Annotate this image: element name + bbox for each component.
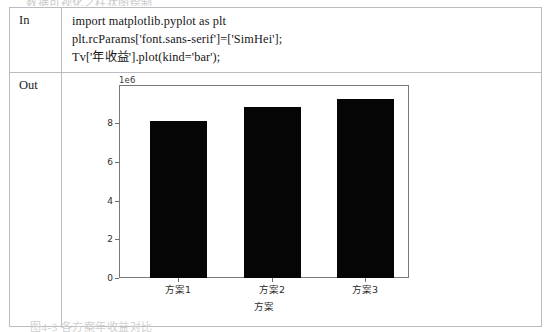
y-tick-label-8: 8 xyxy=(62,118,119,128)
bar-2 xyxy=(337,99,394,278)
output-row: Out 1e6 0 2 4 6 8 xyxy=(10,72,542,326)
x-axis-title: 方案 xyxy=(254,299,274,313)
y-tick-mark-8 xyxy=(115,123,119,124)
bar-chart-figure: 1e6 0 2 4 6 8 方案1 xyxy=(62,73,442,326)
code-line-3: Tv['年收益'].plot(kind='bar'); xyxy=(72,48,541,66)
y-tick-label-2: 2 xyxy=(62,234,119,244)
input-code-cell[interactable]: import matplotlib.pyplot as plt plt.rcPa… xyxy=(62,8,542,73)
y-tick-mark-2 xyxy=(115,239,119,240)
bar-0 xyxy=(150,121,207,278)
y-tick-label-0: 0 xyxy=(62,273,119,283)
code-line-1: import matplotlib.pyplot as plt xyxy=(72,12,541,30)
in-label-cell: In xyxy=(10,8,62,73)
input-row: In import matplotlib.pyplot as plt plt.r… xyxy=(10,8,542,73)
y-axis-offset-text: 1e6 xyxy=(119,75,136,85)
y-tick-mark-6 xyxy=(115,162,119,163)
y-tick-label-6: 6 xyxy=(62,157,119,167)
clipped-caption-bottom: 图4-3 各方案年收益对比 xyxy=(30,318,350,332)
y-tick-mark-0 xyxy=(115,278,119,279)
code-line-2: plt.rcParams['font.sans-serif']=['SimHei… xyxy=(72,30,541,48)
out-label-cell: Out xyxy=(10,72,62,326)
x-tick-label-0: 方案1 xyxy=(165,282,191,296)
y-tick-label-4: 4 xyxy=(62,196,119,206)
notebook-cell-table: In import matplotlib.pyplot as plt plt.r… xyxy=(9,7,542,327)
x-tick-label-2: 方案3 xyxy=(352,282,378,296)
clipped-heading-top: 数据可视化之柱状图绘制 xyxy=(26,0,326,6)
output-figure-cell: 1e6 0 2 4 6 8 方案1 xyxy=(62,72,542,326)
x-tick-label-1: 方案2 xyxy=(259,282,285,296)
bar-1 xyxy=(244,107,301,278)
y-tick-mark-4 xyxy=(115,201,119,202)
